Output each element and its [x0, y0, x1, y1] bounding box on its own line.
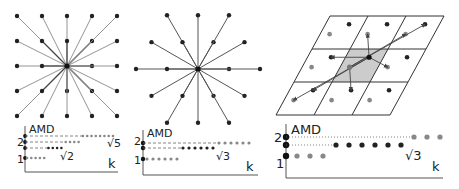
amd-point [90, 135, 93, 138]
star-ray [198, 15, 229, 69]
amd-point [372, 142, 377, 147]
point-type-b [329, 98, 334, 103]
amd-point [103, 135, 106, 138]
amd-point [86, 135, 89, 138]
lattice-point [65, 14, 69, 18]
star-ray [67, 16, 92, 66]
amd-point [112, 135, 115, 138]
amd-point [359, 142, 364, 147]
amd-point [205, 146, 208, 149]
lattice-point [242, 94, 246, 98]
amd-point [217, 141, 220, 144]
lattice-point [115, 14, 119, 18]
x-axis-label: k [432, 159, 440, 174]
lattice-point [227, 13, 231, 17]
lattice-point [40, 114, 44, 118]
amd-point [294, 153, 299, 158]
ytick-1: 1 [17, 153, 24, 166]
star-ray [17, 41, 67, 66]
center-point-b [347, 65, 352, 70]
hexagonal-lattice-star [134, 13, 262, 125]
amd-point [193, 146, 196, 149]
center-point-a [366, 55, 371, 60]
annotation-sqrt2: √2 [60, 150, 74, 163]
amd-point [64, 141, 67, 144]
axis-level-marker [283, 153, 289, 159]
star-ray [152, 69, 199, 96]
lattice-point [180, 40, 184, 44]
star-ray [198, 42, 245, 69]
lattice-point [15, 14, 19, 18]
amd-point [411, 134, 416, 139]
origin-point [64, 63, 69, 68]
lattice-point [115, 114, 119, 118]
point-type-b [327, 32, 332, 37]
star-ray [67, 16, 117, 66]
star-ray [67, 41, 117, 66]
amd-point [69, 141, 72, 144]
amd-point [52, 147, 55, 150]
point-type-a [347, 22, 352, 27]
amd-point [99, 135, 102, 138]
lattice-point [65, 114, 69, 118]
amd-point [229, 141, 232, 144]
lattice-point [40, 89, 44, 93]
lattice-point [90, 14, 94, 18]
lattice-point [134, 67, 138, 71]
x-axis-label: k [108, 156, 116, 171]
amd-point [175, 157, 178, 160]
lattice-point [165, 67, 169, 71]
star-ray [152, 42, 199, 69]
periodic-set-grid [276, 16, 444, 115]
unit-cell [332, 49, 388, 82]
y-axis-label: AMD [29, 123, 55, 136]
x-axis-label: k [246, 159, 254, 174]
y-axis-label: AMD [291, 122, 321, 137]
amd-point [247, 141, 250, 144]
amd-point [47, 147, 50, 150]
lattice-point [15, 39, 19, 43]
amd-point [107, 135, 110, 138]
lattice-point [40, 39, 44, 43]
ytick-2: 2 [274, 130, 282, 145]
lattice-point [196, 13, 200, 17]
lattice-point [196, 120, 200, 124]
lattice-point [15, 89, 19, 93]
lattice-point [149, 40, 153, 44]
figure: AMD k 1 2 √2 √5 AMD k 1 2 √3 AMD k 1 2 √… [0, 0, 459, 189]
lattice-point [40, 64, 44, 68]
amd-point [26, 157, 29, 160]
lattice-point [165, 120, 169, 124]
amd-point [82, 135, 85, 138]
lattice-point [40, 14, 44, 18]
star-ray [198, 69, 245, 96]
annotation-sqrt3: √3 [405, 148, 422, 163]
star-ray [42, 66, 67, 116]
lattice-point [15, 64, 19, 68]
star-ray [67, 66, 92, 116]
amd-point [437, 134, 442, 139]
amd-point [77, 141, 80, 144]
lattice-point [149, 94, 153, 98]
amd-point [95, 135, 98, 138]
lattice-point [165, 13, 169, 17]
point-type-b [385, 65, 390, 70]
amd-point [223, 141, 226, 144]
star-ray [42, 16, 67, 66]
amd-point [424, 134, 429, 139]
amd-point [43, 157, 46, 160]
lattice-point [242, 40, 246, 44]
amd-plot-square: AMD k 1 2 √2 √5 [17, 123, 121, 172]
point-type-a [405, 55, 410, 60]
star-ray [67, 66, 117, 91]
amd-point [320, 153, 325, 158]
lattice-point [180, 94, 184, 98]
square-lattice-star [15, 14, 119, 118]
amd-point [30, 157, 33, 160]
amd-point [169, 157, 172, 160]
amd-point [211, 146, 214, 149]
lattice-point [115, 64, 119, 68]
amd-point [73, 141, 76, 144]
point-type-b [367, 98, 372, 103]
amd-point [241, 141, 244, 144]
